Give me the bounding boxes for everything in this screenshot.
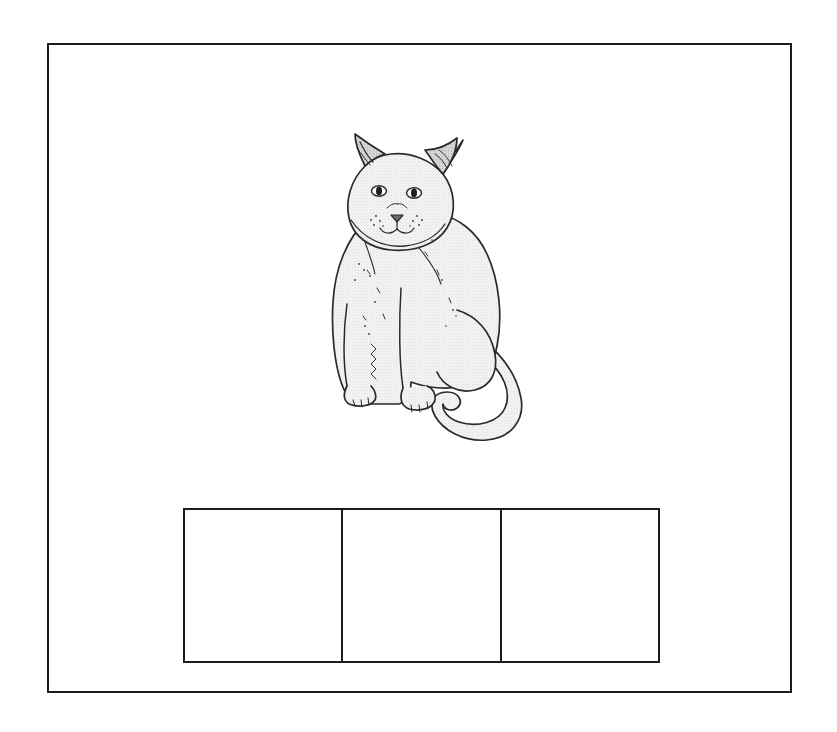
answer-cell-1[interactable]: [185, 510, 343, 661]
answer-cell-2[interactable]: [343, 510, 501, 661]
answer-boxes: [183, 508, 660, 663]
picture-area: [307, 120, 537, 450]
worksheet-page: [0, 0, 837, 732]
answer-cell-3[interactable]: [502, 510, 658, 661]
cat-illustration-icon: [307, 120, 537, 450]
card-frame: [47, 43, 792, 693]
